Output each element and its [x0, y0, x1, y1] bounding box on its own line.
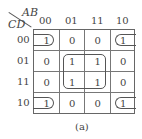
figure-caption: (a) — [75, 122, 89, 132]
group-loop-top-left — [33, 34, 54, 46]
kmap-grid: 1 0 0 1 0 1 1 0 0 1 1 0 1 0 0 1 — [33, 29, 135, 114]
cell-r1-c3: 0 — [111, 51, 137, 72]
cell-r3-c1: 0 — [60, 93, 86, 114]
col-label-1: 01 — [65, 16, 78, 26]
col-label-3: 10 — [116, 16, 129, 26]
col-label-2: 11 — [91, 16, 104, 26]
cell-r1-c0: 0 — [34, 51, 60, 72]
row-label-3: 10 — [17, 98, 30, 108]
cell-r3-c2: 0 — [85, 93, 111, 114]
col-var-label: AB — [22, 7, 38, 18]
group-loop-bottom-left — [33, 97, 54, 109]
group-loop-top-right — [115, 34, 136, 46]
cell-r2-c3: 0 — [111, 72, 137, 93]
cell-r0-c1: 0 — [60, 30, 86, 51]
group-loop-center — [63, 54, 106, 89]
cell-r2-c0: 0 — [34, 72, 60, 93]
group-loop-bottom-right — [115, 97, 136, 109]
row-label-2: 11 — [17, 77, 30, 87]
row-label-0: 00 — [17, 35, 30, 45]
cell-r0-c2: 0 — [85, 30, 111, 51]
row-var-label: CD — [8, 19, 25, 30]
col-label-0: 00 — [39, 16, 52, 26]
row-label-1: 01 — [17, 56, 30, 66]
